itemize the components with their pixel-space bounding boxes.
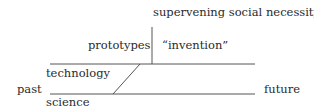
label-past: past bbox=[17, 84, 42, 96]
label-invention: “invention” bbox=[162, 40, 228, 52]
label-technology: technology bbox=[46, 68, 110, 80]
label-supervening-social-necessity: supervening social necessity bbox=[153, 7, 314, 19]
label-science: science bbox=[46, 97, 89, 109]
diagonal-line bbox=[113, 64, 140, 94]
label-prototypes: prototypes bbox=[88, 40, 151, 52]
label-future: future bbox=[264, 84, 300, 96]
